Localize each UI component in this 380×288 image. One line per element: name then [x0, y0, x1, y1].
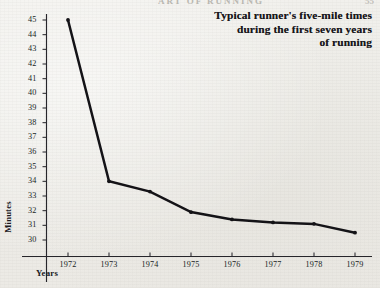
y-tick-label: 31 [19, 220, 37, 229]
y-tick-label: 36 [19, 147, 37, 156]
x-tick-label: 1973 [92, 260, 126, 269]
series-markers [66, 18, 357, 234]
series-line-five-mile-time [68, 20, 355, 233]
y-axis-title: Minutes [3, 195, 13, 239]
data-point [107, 179, 111, 183]
x-tick-label: 1979 [338, 260, 372, 269]
data-point [353, 231, 357, 235]
x-tick-label: 1978 [297, 260, 331, 269]
y-tick-label: 43 [19, 44, 37, 53]
y-tick-label: 45 [19, 15, 37, 24]
y-tick-label: 33 [19, 191, 37, 200]
x-axis-title: Years [36, 268, 58, 278]
y-tick-label: 42 [19, 59, 37, 68]
y-tick-label: 37 [19, 132, 37, 141]
data-point [66, 18, 70, 22]
data-point [148, 190, 152, 194]
data-point [189, 210, 193, 214]
y-tick-label: 39 [19, 103, 37, 112]
x-tick-label: 1974 [133, 260, 167, 269]
data-point [230, 218, 234, 222]
y-tick-label: 34 [19, 176, 37, 185]
data-point [312, 222, 316, 226]
line-chart: 30313233343536373839404142434445 1972197… [0, 0, 380, 288]
y-tick-label: 40 [19, 88, 37, 97]
x-tick-label: 1977 [256, 260, 290, 269]
x-tick-label: 1975 [174, 260, 208, 269]
scanned-book-page: ART OF RUNNING 55 Typical runner's five-… [0, 0, 380, 288]
y-tick-label: 41 [19, 74, 37, 83]
x-axis-ticks [68, 253, 355, 257]
y-tick-label: 35 [19, 162, 37, 171]
y-tick-label: 32 [19, 206, 37, 215]
chart-svg [0, 0, 380, 288]
x-tick-label: 1976 [215, 260, 249, 269]
data-point [271, 221, 275, 225]
y-axis-ticks [43, 20, 47, 240]
y-tick-label: 44 [19, 30, 37, 39]
y-tick-label: 30 [19, 235, 37, 244]
y-tick-label: 38 [19, 118, 37, 127]
